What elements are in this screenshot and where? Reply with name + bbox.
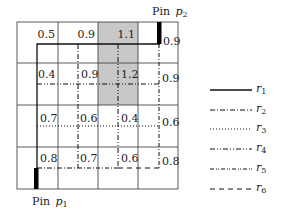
- legend-label-r5: r5: [256, 161, 266, 175]
- cell-label: 0.4: [38, 68, 56, 81]
- routing-grid-diagram: 0.5 0.9 1.1 0.9 0.4 0.9 1.2 0.9 0.7 0.6 …: [0, 0, 281, 220]
- cell-label: 0.7: [40, 112, 58, 125]
- cell-label: 0.4: [121, 112, 139, 125]
- legend-label-r1: r1: [256, 82, 266, 96]
- cell-label: 0.6: [162, 116, 180, 129]
- pin-p2-label: Pin p2: [152, 5, 188, 19]
- cell-label: 0.9: [81, 68, 99, 81]
- pin-p1-marker: [34, 168, 39, 189]
- pin-p1-label: Pin p1: [32, 195, 68, 209]
- cell-label: 0.9: [163, 35, 181, 48]
- cell-label: 0.9: [78, 28, 96, 41]
- legend-label-r4: r4: [256, 141, 266, 155]
- cell-label: 0.8: [40, 152, 58, 165]
- legend-label-r2: r2: [256, 102, 266, 116]
- cell-label: 0.8: [162, 155, 180, 168]
- cell-label: 0.6: [121, 152, 139, 165]
- cell-label: 0.5: [38, 28, 56, 41]
- cell-label: 0.6: [80, 112, 98, 125]
- cell-label: 1.1: [118, 28, 136, 41]
- legend: [210, 90, 252, 189]
- pin-p2-marker: [157, 22, 162, 44]
- cell-label: 1.2: [121, 68, 139, 81]
- legend-label-r3: r3: [256, 121, 266, 135]
- cell-label: 0.7: [80, 152, 98, 165]
- cell-label: 0.9: [162, 72, 180, 85]
- legend-labels: r1 r2 r3 r4 r5 r6: [256, 82, 266, 195]
- legend-label-r6: r6: [256, 181, 266, 195]
